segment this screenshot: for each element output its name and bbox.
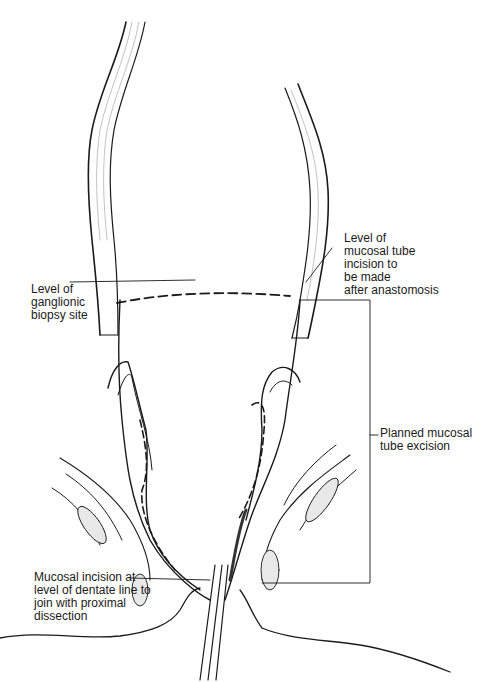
anatomical-diagram: Level of ganglionic biopsy site Level of…	[0, 0, 484, 682]
label-mucosal-tube-incision: Level of mucosal tube incision to be mad…	[344, 232, 439, 297]
forceps-icon	[200, 565, 228, 680]
leader-lines	[70, 248, 378, 583]
label-dentate-incision: Mucosal incision at level of dentate lin…	[34, 571, 151, 623]
left-muscular-cuff	[108, 362, 200, 590]
label-planned-excision: Planned mucosal tube excision	[380, 427, 472, 453]
left-colon-wall	[88, 22, 145, 335]
right-sphincter-muscles	[261, 445, 356, 590]
incision-level-line	[117, 293, 290, 303]
label-ganglionic-biopsy: Level of ganglionic biopsy site	[31, 283, 88, 322]
